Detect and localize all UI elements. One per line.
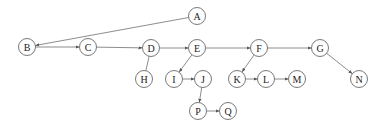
node-m: M bbox=[289, 71, 306, 88]
node-e: E bbox=[189, 40, 206, 57]
node-a: A bbox=[189, 8, 206, 25]
node-label: K bbox=[233, 74, 241, 85]
node-c: C bbox=[80, 39, 97, 56]
node-n: N bbox=[351, 71, 368, 88]
node-label: E bbox=[194, 43, 200, 54]
node-label: N bbox=[355, 74, 362, 85]
edge-g-n bbox=[327, 53, 353, 73]
node-label: D bbox=[147, 43, 154, 54]
nodes-layer: ABCDEFGHIJKLMNPQ bbox=[19, 8, 368, 120]
node-label: J bbox=[201, 74, 205, 85]
node-i: I bbox=[166, 71, 183, 88]
node-label: P bbox=[195, 106, 201, 117]
node-label: H bbox=[140, 74, 147, 85]
node-g: G bbox=[312, 40, 329, 57]
node-label: I bbox=[172, 74, 175, 85]
edge-d-h bbox=[146, 56, 149, 70]
node-label: L bbox=[263, 74, 269, 85]
node-label: B bbox=[24, 42, 31, 53]
edge-e-i bbox=[179, 55, 192, 72]
node-l: L bbox=[258, 71, 275, 88]
node-label: F bbox=[256, 43, 262, 54]
node-label: M bbox=[293, 74, 302, 85]
directed-graph: ABCDEFGHIJKLMNPQ bbox=[0, 0, 383, 130]
edge-f-k bbox=[242, 55, 254, 72]
node-label: Q bbox=[224, 106, 232, 117]
edges-layer bbox=[35, 18, 352, 111]
node-d: D bbox=[143, 40, 160, 57]
node-p: P bbox=[190, 103, 207, 120]
edge-a-b bbox=[35, 18, 188, 46]
node-h: H bbox=[136, 71, 153, 88]
node-label: A bbox=[193, 11, 201, 22]
edge-j-p bbox=[199, 87, 201, 102]
node-label: G bbox=[316, 43, 323, 54]
edge-c-d bbox=[96, 47, 142, 48]
node-b: B bbox=[19, 39, 36, 56]
node-k: K bbox=[229, 71, 246, 88]
node-f: F bbox=[251, 40, 268, 57]
node-label: C bbox=[85, 42, 92, 53]
node-q: Q bbox=[220, 103, 237, 120]
node-j: J bbox=[195, 71, 212, 88]
